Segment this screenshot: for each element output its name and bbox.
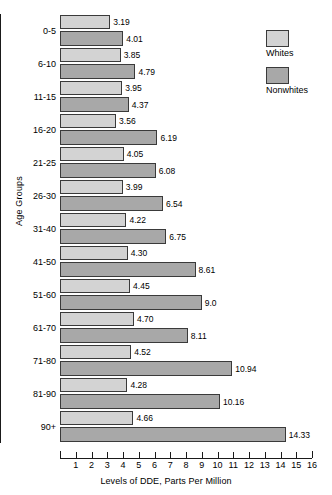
bar-row: 6.19 xyxy=(60,130,312,147)
bar-whites[interactable] xyxy=(60,180,123,195)
bar-row: 3.56 xyxy=(60,113,312,130)
age-group-label: 11-15 xyxy=(0,92,56,102)
age-group-label: 16-20 xyxy=(0,125,56,135)
bar-whites[interactable] xyxy=(60,246,128,261)
bar-whites[interactable] xyxy=(60,378,127,393)
bar-value-label: 6.75 xyxy=(166,232,186,242)
bar-row: 6.75 xyxy=(60,229,312,246)
bar-value-label: 4.28 xyxy=(127,380,147,390)
bar-nonwhites[interactable] xyxy=(60,31,123,46)
legend-item[interactable]: Nonwhites xyxy=(266,67,332,95)
bar-value-label: 4.45 xyxy=(130,281,150,291)
x-axis-tick xyxy=(107,452,108,458)
bar-nonwhites[interactable] xyxy=(60,163,156,178)
legend-item[interactable]: Whites xyxy=(266,30,332,58)
x-axis-tick xyxy=(186,452,187,458)
x-axis-tick-label: 11 xyxy=(229,460,238,470)
bar-row: 9.0 xyxy=(60,295,312,312)
dde-levels-bar-chart: Age Groups 3.194.013.854.793.954.373.566… xyxy=(0,0,332,495)
bar-value-label: 4.66 xyxy=(133,413,153,423)
x-axis-tick xyxy=(281,452,282,458)
x-axis-tick xyxy=(123,452,124,458)
bar-value-label: 14.33 xyxy=(286,430,310,440)
x-axis-tick-label: 13 xyxy=(260,460,270,470)
bar-value-label: 3.19 xyxy=(110,17,130,27)
age-group-label: 81-90 xyxy=(0,389,56,399)
bar-value-label: 8.61 xyxy=(196,265,216,275)
x-axis-tick-label: 16 xyxy=(307,460,317,470)
bar-nonwhites[interactable] xyxy=(60,427,286,442)
bar-nonwhites[interactable] xyxy=(60,361,232,376)
bar-row: 10.94 xyxy=(60,361,312,378)
x-axis-tick-label: 12 xyxy=(244,460,254,470)
x-axis-tick xyxy=(139,452,140,458)
age-group-label: 6-10 xyxy=(0,59,56,69)
bar-nonwhites[interactable] xyxy=(60,328,188,343)
bar-row: 4.66 xyxy=(60,410,312,427)
x-axis-tick-label: 1 xyxy=(73,460,78,470)
bar-row: 6.54 xyxy=(60,196,312,213)
bar-whites[interactable] xyxy=(60,15,110,30)
x-axis-tick-label: 4 xyxy=(120,460,125,470)
age-group-label: 41-50 xyxy=(0,257,56,267)
bar-row: 4.05 xyxy=(60,146,312,163)
bar-row: 3.99 xyxy=(60,179,312,196)
bar-nonwhites[interactable] xyxy=(60,196,163,211)
bar-whites[interactable] xyxy=(60,147,124,162)
bar-nonwhites[interactable] xyxy=(60,130,157,145)
bar-row: 10.16 xyxy=(60,394,312,411)
bar-nonwhites[interactable] xyxy=(60,229,166,244)
bar-whites[interactable] xyxy=(60,345,131,360)
x-axis: 12345678910111213141516 xyxy=(60,458,312,459)
bar-value-label: 8.11 xyxy=(188,331,207,341)
age-group-label: 71-80 xyxy=(0,356,56,366)
bar-whites[interactable] xyxy=(60,48,121,63)
age-group-label: 26-30 xyxy=(0,191,56,201)
age-group-label: 21-25 xyxy=(0,158,56,168)
x-axis-tick-label: 7 xyxy=(168,460,173,470)
bar-value-label: 3.85 xyxy=(121,50,141,60)
bar-value-label: 3.56 xyxy=(116,116,136,126)
legend-label: Nonwhites xyxy=(266,85,332,95)
bar-whites[interactable] xyxy=(60,114,116,129)
bar-nonwhites[interactable] xyxy=(60,295,202,310)
bar-whites[interactable] xyxy=(60,279,130,294)
x-axis-tick-label: 5 xyxy=(136,460,141,470)
bar-whites[interactable] xyxy=(60,411,133,426)
bar-group: 4.6614.33 xyxy=(60,410,312,443)
legend-swatch xyxy=(266,30,289,47)
bar-nonwhites[interactable] xyxy=(60,64,135,79)
bar-row: 4.52 xyxy=(60,344,312,361)
age-group-label: 51-60 xyxy=(0,290,56,300)
x-axis-tick-label: 6 xyxy=(152,460,157,470)
bar-value-label: 4.30 xyxy=(128,248,148,258)
bar-row: 14.33 xyxy=(60,427,312,444)
bar-row: 4.45 xyxy=(60,278,312,295)
bar-nonwhites[interactable] xyxy=(60,97,129,112)
bar-group: 4.459.0 xyxy=(60,278,312,311)
bar-whites[interactable] xyxy=(60,81,122,96)
x-axis-tick xyxy=(296,452,297,458)
x-axis-tick-label: 9 xyxy=(199,460,204,470)
bar-value-label: 4.01 xyxy=(123,34,143,44)
bar-row: 8.61 xyxy=(60,262,312,279)
bar-whites[interactable] xyxy=(60,312,134,327)
x-axis-tick-label: 14 xyxy=(275,460,285,470)
bar-group: 4.308.61 xyxy=(60,245,312,278)
bar-value-label: 4.22 xyxy=(126,215,146,225)
x-axis-tick xyxy=(202,452,203,458)
bar-row: 4.30 xyxy=(60,245,312,262)
bar-group: 3.996.54 xyxy=(60,179,312,212)
legend-swatch xyxy=(266,67,289,84)
x-axis-tick-label: 2 xyxy=(89,460,94,470)
bar-nonwhites[interactable] xyxy=(60,394,220,409)
bar-nonwhites[interactable] xyxy=(60,262,196,277)
x-axis-tick xyxy=(60,451,61,458)
bar-whites[interactable] xyxy=(60,213,126,228)
x-axis-tick xyxy=(233,452,234,458)
bar-value-label: 9.0 xyxy=(202,298,217,308)
bar-value-label: 3.99 xyxy=(123,182,143,192)
bar-value-label: 4.05 xyxy=(124,149,144,159)
x-axis-tick-label: 10 xyxy=(212,460,222,470)
x-axis-tick xyxy=(170,452,171,458)
